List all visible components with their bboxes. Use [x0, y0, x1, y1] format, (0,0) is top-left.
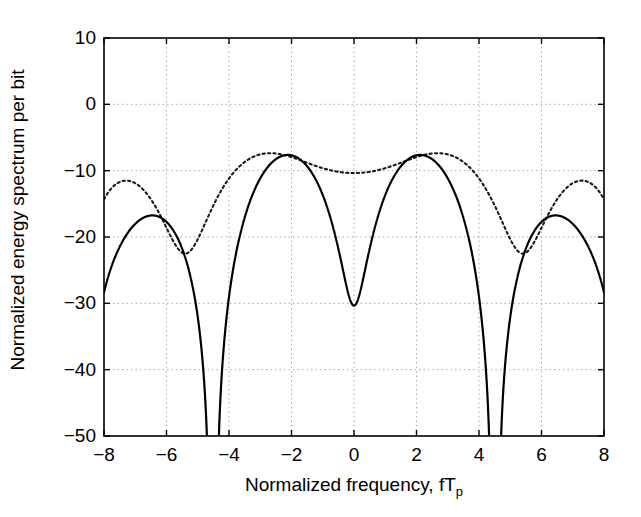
chart-figure: Normalized energy spectrum per bit Norma… [0, 0, 641, 517]
y-tick-label: −20 [40, 226, 96, 248]
x-tick-label: −2 [281, 444, 303, 466]
y-tick-label: 0 [40, 93, 96, 115]
plot-area [0, 0, 641, 517]
x-tick-label: 4 [474, 444, 485, 466]
x-tick-label: −4 [218, 444, 240, 466]
x-tick-label: 2 [411, 444, 422, 466]
y-tick-label: 10 [40, 27, 96, 49]
x-tick-label: 0 [349, 444, 360, 466]
x-tick-label: −8 [93, 444, 115, 466]
y-tick-label: −30 [40, 292, 96, 314]
y-tick-label: −40 [40, 359, 96, 381]
x-tick-label: 8 [599, 444, 610, 466]
x-tick-label: 6 [536, 444, 547, 466]
y-tick-label: −50 [40, 425, 96, 447]
y-tick-label: −10 [40, 160, 96, 182]
x-tick-label: −6 [156, 444, 178, 466]
